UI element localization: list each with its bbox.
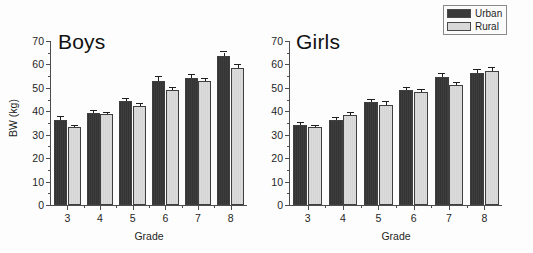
error-cap-girls-urban-grade-7 [438,73,445,74]
y-tick-label-boys-10: 10 [32,176,44,187]
bar-girls-urban-grade-8 [470,73,484,205]
error-bar-boys-urban-grade-4 [93,111,94,113]
error-cap-boys-rural-grade-5 [136,103,143,104]
panel-girls: Girls Grade 010203040506070345678 [240,0,533,253]
x-tick-minor-boys-1 [116,205,117,208]
error-cap-girls-urban-grade-3 [297,122,304,123]
bar-boys-rural-grade-6 [166,90,179,205]
x-tick-girls-3 [308,205,309,210]
y-tick-label-girls-10: 10 [271,176,283,187]
error-bar-boys-urban-grade-3 [60,117,61,119]
x-tick-minor-girls-4 [467,205,468,208]
y-tick-girls-60 [285,64,290,65]
error-cap-girls-rural-grade-5 [382,101,389,102]
y-tick-minor-girls-30 [287,123,290,124]
error-cap-boys-urban-grade-8 [220,51,227,52]
bar-girls-rural-grade-6 [414,92,428,205]
panel-boys: Boys BW (kg) Grade 010203040506070345678 [0,0,268,253]
y-tick-minor-girls-60 [287,53,290,54]
x-tick-label-girls-3: 3 [305,213,311,224]
x-tick-girls-8 [484,205,485,210]
y-tick-minor-girls-10 [287,170,290,171]
error-cap-boys-urban-grade-3 [57,116,64,117]
bar-girls-rural-grade-7 [449,85,463,205]
error-bar-boys-rural-grade-3 [74,126,75,128]
y-tick-label-boys-50: 50 [32,83,44,94]
x-tick-label-girls-6: 6 [411,213,417,224]
x-tick-label-boys-5: 5 [130,213,136,224]
error-bar-girls-rural-grade-4 [350,113,351,115]
x-tick-girls-4 [343,205,344,210]
x-tick-label-boys-4: 4 [97,213,103,224]
x-tick-boys-6 [165,205,166,210]
bar-boys-urban-grade-8 [217,56,230,205]
y-tick-minor-boys-40 [48,100,51,101]
bar-boys-rural-grade-7 [198,81,211,205]
error-cap-girls-urban-grade-5 [367,99,374,100]
bar-girls-rural-grade-4 [343,115,357,205]
bar-girls-urban-grade-3 [293,125,307,205]
bar-boys-rural-grade-4 [100,114,113,205]
x-tick-label-boys-6: 6 [162,213,168,224]
y-tick-boys-50 [46,88,51,89]
error-cap-boys-urban-grade-4 [90,110,97,111]
error-cap-girls-rural-grade-8 [488,67,495,68]
y-tick-boys-10 [46,182,51,183]
y-tick-girls-40 [285,111,290,112]
bar-boys-urban-grade-3 [54,120,67,206]
y-tick-label-girls-20: 20 [271,153,283,164]
error-bar-girls-rural-grade-8 [492,68,493,71]
x-tick-boys-5 [133,205,134,210]
error-bar-girls-urban-grade-8 [477,70,478,73]
x-axis-title-girls: Grade [290,230,502,242]
error-bar-boys-urban-grade-6 [158,77,159,81]
error-cap-girls-rural-grade-6 [417,89,424,90]
y-tick-label-girls-30: 30 [271,129,283,140]
error-bar-boys-rural-grade-5 [140,104,141,106]
x-tick-boys-3 [67,205,68,210]
error-bar-girls-urban-grade-7 [442,74,443,77]
y-tick-girls-30 [285,135,290,136]
y-tick-minor-boys-60 [48,53,51,54]
y-tick-boys-40 [46,111,51,112]
error-bar-girls-urban-grade-6 [406,88,407,90]
y-tick-girls-70 [285,41,290,42]
plot-area-girls: Grade 010203040506070345678 [289,41,502,206]
error-bar-girls-rural-grade-6 [421,90,422,92]
x-tick-label-boys-3: 3 [64,213,70,224]
y-tick-minor-boys-30 [48,123,51,124]
error-bar-girls-urban-grade-4 [336,118,337,120]
error-cap-girls-urban-grade-8 [473,69,480,70]
bar-girls-urban-grade-6 [399,90,413,205]
y-tick-minor-boys-50 [48,76,51,77]
error-cap-girls-rural-grade-4 [347,112,354,113]
x-tick-label-girls-8: 8 [481,213,487,224]
x-tick-minor-boys-2 [149,205,150,208]
error-bar-boys-urban-grade-7 [191,75,192,78]
error-bar-boys-rural-grade-6 [172,88,173,90]
bar-boys-urban-grade-7 [185,78,198,205]
error-bar-boys-urban-grade-8 [224,53,225,56]
error-bar-girls-rural-grade-5 [386,102,387,105]
x-tick-minor-boys-0 [84,205,85,208]
x-tick-boys-7 [198,205,199,210]
x-tick-minor-girls-2 [396,205,397,208]
bar-boys-urban-grade-6 [152,81,165,205]
error-cap-girls-rural-grade-7 [453,82,460,83]
bar-girls-rural-grade-3 [308,127,322,205]
x-tick-minor-boys-4 [214,205,215,208]
error-cap-boys-urban-grade-6 [155,76,162,77]
bar-boys-urban-grade-4 [87,113,100,205]
x-tick-label-boys-7: 7 [195,213,201,224]
error-bar-boys-rural-grade-4 [107,113,108,115]
bar-girls-rural-grade-5 [379,105,393,205]
error-bar-girls-rural-grade-7 [456,83,457,85]
y-tick-label-boys-40: 40 [32,106,44,117]
error-cap-girls-urban-grade-4 [332,117,339,118]
y-tick-boys-60 [46,64,51,65]
x-tick-label-girls-7: 7 [446,213,452,224]
y-tick-girls-0 [285,205,290,206]
y-tick-label-boys-70: 70 [32,36,44,47]
y-tick-label-girls-50: 50 [271,83,283,94]
bar-girls-urban-grade-7 [435,77,449,205]
